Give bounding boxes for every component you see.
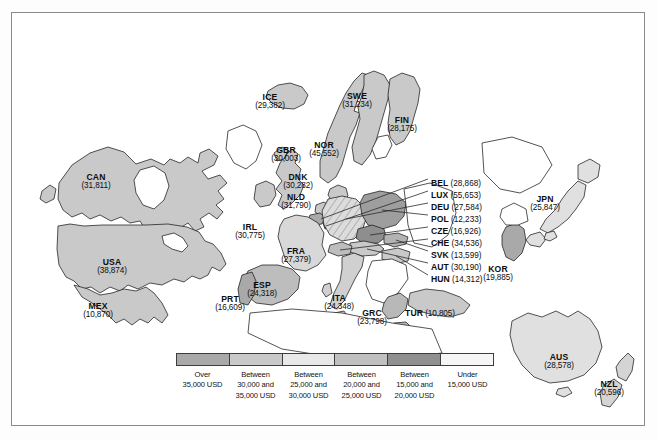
figure-root: CAN(31,811)USA(38,874)MEX(10,870)ICE(29,… [0, 0, 658, 440]
legend-item-4: Between15,000 and20,000 USD [388, 370, 441, 401]
country-usa [57, 224, 226, 293]
legend-label-row: Over35,000 USDBetween30,000 and35,000 US… [176, 370, 494, 401]
country-ita [330, 253, 364, 309]
country-kor [502, 223, 526, 261]
legend-item-2: Between25,000 and30,000 USD [282, 370, 335, 401]
map-legend: Over35,000 USDBetween30,000 and35,000 US… [176, 353, 506, 411]
legend-item-line-l1: Between [388, 370, 441, 380]
legend-item-5: Under15,000 USD [441, 370, 494, 401]
legend-item-line-l1: Over [176, 370, 229, 380]
country-ice [266, 83, 308, 109]
country-fin [388, 73, 420, 145]
legend-item-line-l1: Under [441, 370, 494, 380]
country-jpn-shikoku [544, 231, 557, 241]
legend-item-line-l1: Between [282, 370, 335, 380]
legend-item-line-l3: 35,000 USD [229, 391, 282, 401]
legend-item-line-l2: 30,000 and [229, 380, 282, 390]
country-nzl-south [600, 379, 622, 407]
map-frame: CAN(31,811)USA(38,874)MEX(10,870)ICE(29,… [11, 12, 645, 426]
legend-item-line-l3: 30,000 USD [282, 391, 335, 401]
legend-swatch-0 [177, 354, 230, 365]
eastern-europe [404, 183, 456, 247]
legend-swatch-5 [441, 354, 493, 365]
legend-item-line-l2: 20,000 and [335, 380, 388, 390]
asia-coast [482, 137, 552, 193]
legend-item-line-l2: 25,000 and [282, 380, 335, 390]
country-jpn-hokkaido [578, 159, 600, 183]
legend-item-line-l3: 20,000 USD [388, 391, 441, 401]
country-tur [408, 289, 470, 317]
legend-item-3: Between20,000 and25,000 USD [335, 370, 388, 401]
legend-item-line-l2: 15,000 USD [441, 380, 494, 390]
country-irl [254, 181, 276, 207]
country-ita-sardinia [322, 283, 332, 297]
legend-item-line-l3: 25,000 USD [335, 391, 388, 401]
legend-item-0: Over35,000 USD [176, 370, 229, 401]
legend-item-1: Between30,000 and35,000 USD [229, 370, 282, 401]
country-jpn-kyushu [526, 232, 546, 247]
legend-item-line-l2: 15,000 and [388, 380, 441, 390]
korea-north [500, 203, 528, 225]
country-aus-tasmania [556, 387, 572, 397]
legend-swatch-1 [230, 354, 283, 365]
country-jpn [540, 181, 586, 233]
legend-swatch-4 [388, 354, 441, 365]
legend-item-line-l2: 35,000 USD [176, 380, 229, 390]
legend-swatch-2 [283, 354, 336, 365]
legend-item-line-l1: Between [335, 370, 388, 380]
north-africa [248, 309, 442, 359]
legend-item-line-l1: Between [229, 370, 282, 380]
country-alaska [40, 185, 56, 203]
greenland [226, 125, 262, 169]
country-mex [74, 285, 168, 325]
map-stage: CAN(31,811)USA(38,874)MEX(10,870)ICE(29,… [12, 13, 644, 425]
legend-swatch-3 [335, 354, 388, 365]
country-nzl-north [616, 353, 634, 381]
country-aus [510, 311, 602, 383]
legend-swatch-row [176, 353, 494, 366]
